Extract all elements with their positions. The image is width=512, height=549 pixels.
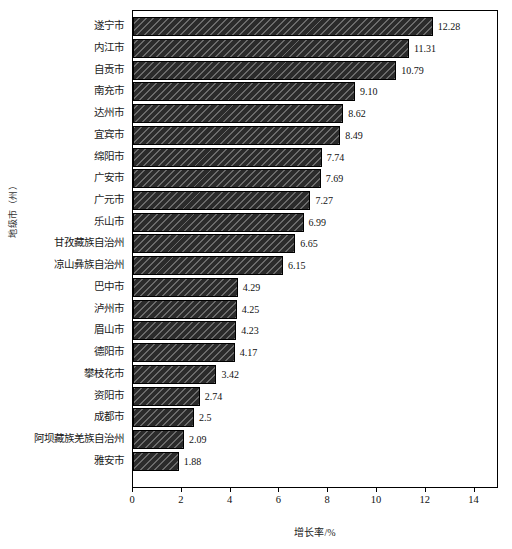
bar-value-label: 6.15 [288,256,306,275]
category-label: 德阳市 [94,342,124,361]
x-tick-mark [278,488,279,492]
category-label: 南充市 [94,81,124,100]
bar-row[interactable]: 4.17 [133,343,499,362]
bar-value-label: 3.42 [221,365,239,384]
category-label: 凉山彝族自治州 [54,255,124,274]
bar[interactable] [133,82,355,101]
bar[interactable] [133,213,304,232]
category-label: 绵阳市 [94,147,124,166]
bar-value-label: 7.69 [326,169,344,188]
bar-value-label: 2.74 [205,387,223,406]
bar[interactable] [133,169,321,188]
plot-area: 12.2811.3110.799.108.628.497.747.697.276… [132,10,498,488]
bar-value-label: 12.28 [438,17,461,36]
bar-row[interactable]: 8.62 [133,104,499,123]
plot-inner: 12.2811.3110.799.108.628.497.747.697.276… [133,11,497,487]
bar-value-label: 10.79 [401,61,424,80]
category-label: 攀枝花市 [84,364,124,383]
bar[interactable] [133,365,216,384]
bar[interactable] [133,39,409,58]
bar-row[interactable]: 1.88 [133,452,499,471]
bar[interactable] [133,300,237,319]
bar[interactable] [133,408,194,427]
bar-value-label: 8.49 [345,126,363,145]
x-tick-label: 0 [117,494,147,505]
bar-row[interactable]: 7.69 [133,169,499,188]
category-label: 广元市 [94,190,124,209]
bar-row[interactable]: 3.42 [133,365,499,384]
x-tick-mark [230,488,231,492]
bar-row[interactable]: 6.15 [133,256,499,275]
bar-row[interactable]: 11.31 [133,39,499,58]
x-axis-title: 增长率/% [132,524,498,539]
category-label: 自贡市 [94,60,124,79]
x-tick-label: 2 [166,494,196,505]
x-tick-label: 6 [263,494,293,505]
x-tick-mark [474,488,475,492]
bar-value-label: 6.65 [300,234,318,253]
bar-row[interactable]: 4.25 [133,300,499,319]
x-tick-mark [327,488,328,492]
bar-value-label: 6.99 [309,213,327,232]
category-label: 眉山市 [94,320,124,339]
bar-row[interactable]: 7.74 [133,148,499,167]
bar-row[interactable]: 4.29 [133,278,499,297]
category-label: 阿坝藏族羌族自治州 [34,429,124,448]
x-tick-label: 14 [459,494,489,505]
category-axis: 遂宁市内江市自贡市南充市达州市宜宾市绵阳市广安市广元市乐山市甘孜藏族自治州凉山彝… [0,10,128,488]
bar-value-label: 4.23 [241,321,259,340]
bar[interactable] [133,126,340,145]
category-label: 达州市 [94,103,124,122]
x-tick-mark [425,488,426,492]
bar-row[interactable]: 12.28 [133,17,499,36]
bar-value-label: 7.74 [327,148,345,167]
bar-row[interactable]: 6.99 [133,213,499,232]
x-tick-label: 4 [215,494,245,505]
bar-value-label: 1.88 [184,452,202,471]
bar[interactable] [133,17,433,36]
x-tick-mark [376,488,377,492]
bar[interactable] [133,256,283,275]
bar[interactable] [133,61,396,80]
bar[interactable] [133,321,236,340]
category-label: 内江市 [94,38,124,57]
category-label: 甘孜藏族自治州 [54,233,124,252]
x-tick-label: 10 [361,494,391,505]
category-label: 成都市 [94,407,124,426]
x-tick-mark [181,488,182,492]
bar[interactable] [133,430,184,449]
bar-row[interactable]: 10.79 [133,61,499,80]
bar-row[interactable]: 2.5 [133,408,499,427]
bar-value-label: 2.09 [189,430,207,449]
bar-row[interactable]: 9.10 [133,82,499,101]
category-label: 遂宁市 [94,16,124,35]
bar[interactable] [133,191,310,210]
category-label: 雅安市 [94,451,124,470]
category-label: 宜宾市 [94,125,124,144]
bar-row[interactable]: 2.09 [133,430,499,449]
x-axis-tick-labels: 02468101214 [132,494,498,510]
bar-row[interactable]: 2.74 [133,387,499,406]
bar-row[interactable]: 8.49 [133,126,499,145]
category-label: 广安市 [94,168,124,187]
bar[interactable] [133,278,238,297]
bar[interactable] [133,452,179,471]
bar[interactable] [133,234,295,253]
bar-value-label: 4.29 [243,278,261,297]
bar-chart-figure: 地级市（州） 遂宁市内江市自贡市南充市达州市宜宾市绵阳市广安市广元市乐山市甘孜藏… [0,0,512,549]
category-label: 乐山市 [94,212,124,231]
category-label: 巴中市 [94,277,124,296]
bar[interactable] [133,387,200,406]
bar[interactable] [133,148,322,167]
bar[interactable] [133,104,343,123]
bar-value-label: 11.31 [414,39,436,58]
bar-row[interactable]: 6.65 [133,234,499,253]
bar-row[interactable]: 4.23 [133,321,499,340]
bar[interactable] [133,343,235,362]
bar-value-label: 2.5 [199,408,212,427]
bar-value-label: 4.17 [240,343,258,362]
bar-row[interactable]: 7.27 [133,191,499,210]
x-tick-label: 12 [410,494,440,505]
category-label: 泸州市 [94,299,124,318]
bar-value-label: 9.10 [360,82,378,101]
